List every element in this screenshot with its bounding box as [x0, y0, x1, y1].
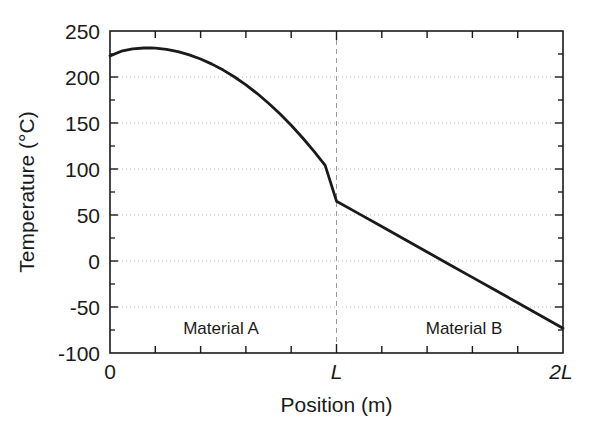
temperature-position-chart: 250 200 150 100 50 0 -50 -100 0 L 2L Pos…: [0, 0, 602, 435]
y-tick-250: 250: [65, 20, 100, 43]
y-tick-200: 200: [65, 66, 100, 89]
x-tick-0: 0: [104, 360, 116, 383]
x-axis-tick-labels: 0 L 2L: [104, 360, 573, 383]
x-axis-minor-ticks-top: [155, 31, 517, 40]
y-tick-m100: -100: [58, 342, 100, 365]
x-tick-L: L: [331, 360, 343, 383]
x-tick-2L: 2L: [548, 360, 572, 383]
material-a-label: Material A: [183, 319, 259, 338]
x-axis-minor-ticks-bottom: [155, 344, 517, 353]
x-axis-title: Position (m): [280, 393, 392, 416]
y-tick-m50: -50: [70, 296, 100, 319]
y-axis-ticks-right: [555, 54, 563, 330]
y-tick-50: 50: [77, 204, 100, 227]
y-axis-tick-labels: 250 200 150 100 50 0 -50 -100: [58, 20, 100, 365]
gridlines: [110, 77, 563, 307]
y-axis-title: Temperature (°C): [15, 111, 38, 272]
material-b-label: Material B: [426, 319, 503, 338]
y-tick-100: 100: [65, 158, 100, 181]
chart-figure: 250 200 150 100 50 0 -50 -100 0 L 2L Pos…: [0, 0, 602, 435]
y-tick-150: 150: [65, 112, 100, 135]
y-tick-0: 0: [88, 250, 100, 273]
